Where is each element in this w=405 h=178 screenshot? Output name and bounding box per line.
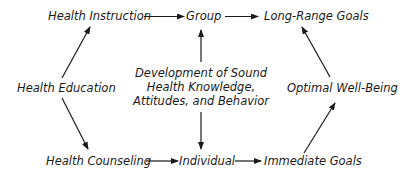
node-development-line-3: Attitudes, and Behavior — [131, 94, 271, 108]
arrow-immediate-goals-to-well-being — [304, 103, 335, 153]
node-health-instruction: Health Instruction — [48, 9, 151, 23]
arrow-education-to-counseling — [62, 98, 88, 149]
node-individual: Individual — [179, 154, 235, 168]
node-optimal-well-being: Optimal Well-Being — [287, 81, 398, 95]
node-long-range-goals: Long-Range Goals — [264, 9, 369, 23]
node-development-line-1: Development of Sound — [131, 66, 271, 80]
node-health-counseling: Health Counseling — [46, 154, 151, 168]
node-group: Group — [186, 9, 221, 23]
node-health-education: Health Education — [17, 81, 116, 95]
node-immediate-goals: Immediate Goals — [264, 154, 362, 168]
arrow-well-being-to-long-range-goals — [302, 27, 330, 77]
node-development-line-2: Health Knowledge, — [131, 80, 271, 94]
arrow-education-to-instruction — [62, 27, 90, 78]
node-development: Development of Sound Health Knowledge, A… — [131, 66, 271, 108]
